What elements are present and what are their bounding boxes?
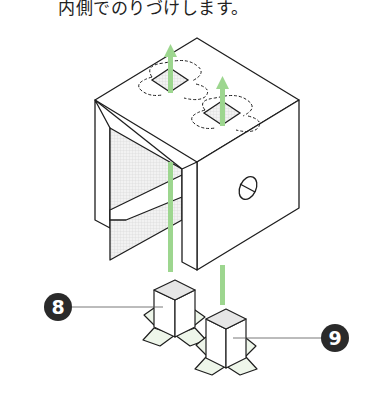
post-part-8	[143, 280, 206, 346]
cube-front-pillar	[182, 162, 197, 270]
callout-number-9: 9	[328, 327, 341, 349]
post-part-9	[195, 309, 257, 375]
arrow-right-lower	[220, 265, 225, 305]
arrow-left-lower	[168, 162, 173, 272]
assembly-diagram: 8 9	[0, 0, 370, 408]
callout-number-8: 8	[51, 296, 64, 318]
callout-badge-8: 8	[44, 293, 72, 321]
cube-left-flap	[95, 100, 110, 228]
arrow-right-shaft	[220, 86, 225, 126]
callout-badge-9: 9	[321, 324, 349, 352]
arrow-left-shaft	[168, 55, 173, 93]
arrow-left-head	[164, 44, 177, 57]
cube-box	[95, 38, 299, 270]
